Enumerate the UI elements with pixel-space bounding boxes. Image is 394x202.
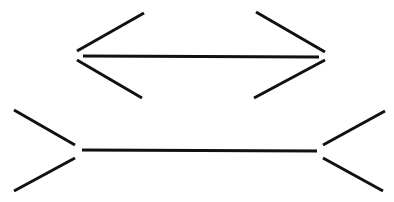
muller-lyer-diagram: [0, 0, 394, 202]
fin-line: [323, 111, 385, 145]
fin-line: [77, 60, 142, 98]
fin-line: [254, 60, 325, 98]
fin-line: [14, 158, 75, 191]
shaft-line: [83, 56, 319, 57]
shaft-line: [82, 150, 317, 151]
fin-line: [14, 110, 75, 145]
fin-line: [77, 13, 144, 51]
bottom-figure: [14, 110, 385, 191]
fin-line: [323, 158, 383, 191]
top-figure: [77, 12, 325, 98]
fin-line: [256, 12, 325, 52]
